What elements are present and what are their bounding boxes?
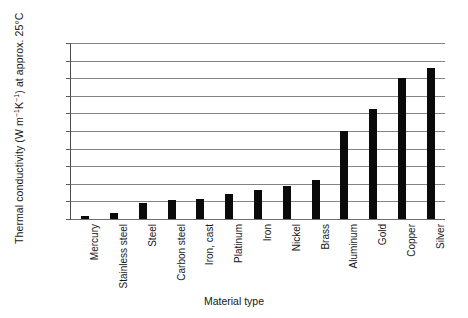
y-axis-title: Thermal conductivity (W m−1K−1) at appro…	[13, 24, 25, 244]
x-axis-title: Material type	[0, 295, 468, 307]
bar	[139, 203, 147, 219]
x-axis-tick-label: Gold	[377, 224, 388, 245]
x-axis-tick-label: Platinum	[233, 224, 244, 263]
plot-area	[71, 43, 445, 219]
y-axis-title-lead: Thermal conductivity (W m	[13, 117, 25, 244]
bar	[254, 190, 262, 219]
x-axis-tick-label: Iron, cast	[204, 224, 215, 265]
bar	[196, 199, 204, 219]
y-axis-tick	[66, 219, 71, 220]
y-axis-title-exponent-1: −1	[13, 109, 20, 117]
bar	[168, 200, 176, 219]
bar	[427, 68, 435, 219]
x-axis-tick-label: Steel	[147, 224, 158, 247]
x-axis-tick-label: Stainless steel	[118, 224, 129, 288]
bar	[225, 194, 233, 219]
bar-chart: Thermal conductivity (W m−1K−1) at appro…	[0, 0, 468, 318]
y-axis-title-exponent-2: −1	[13, 94, 20, 102]
x-axis-tick-label: Nickel	[291, 224, 302, 251]
bar	[283, 186, 291, 219]
bar	[369, 109, 377, 219]
y-axis-title-mid: K	[13, 102, 25, 109]
bar	[398, 78, 406, 219]
x-axis-tick-label: Iron	[262, 224, 273, 241]
y-axis-title-tail: ) at approx. 25°C	[13, 13, 25, 94]
bar	[81, 216, 89, 219]
gridline	[71, 219, 445, 220]
bar	[340, 131, 348, 219]
bar	[312, 180, 320, 219]
x-axis-tick-label: Aluminum	[348, 224, 359, 268]
x-axis-tick-label: Copper	[406, 224, 417, 257]
x-axis-tick-label: Carbon steel	[176, 224, 187, 281]
x-axis-tick-label: Mercury	[89, 224, 100, 260]
x-axis-tick-label: Silver	[435, 224, 446, 249]
x-axis-tick-label: Brass	[320, 224, 331, 250]
bar	[110, 213, 118, 219]
